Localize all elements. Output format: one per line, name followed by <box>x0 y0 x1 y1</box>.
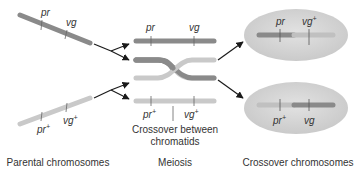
parental-chromosome-bottom: pr+ vg+ <box>20 98 90 135</box>
arrow-bottom-to-chromatid4 <box>111 90 129 99</box>
gene-label-vg-plus: vg+ <box>184 108 199 120</box>
gene-label-vg: vg <box>304 115 315 126</box>
gene-label-vg: vg <box>66 17 77 28</box>
meiosis-chromatids: pr vg pr+ vg+ <box>136 22 214 121</box>
gene-label-vg: vg <box>189 22 200 33</box>
arrow-stem-top <box>94 44 111 51</box>
arrows-parental-to-meiosis <box>94 44 129 99</box>
crossover-cell-top: pr vg+ <box>244 9 348 61</box>
gene-label-pr: pr <box>40 7 51 18</box>
caption-meiosis: Meiosis <box>158 157 192 168</box>
caption-crossover: Crossover chromosomes <box>242 157 353 168</box>
arrow-bottom-to-chromatid3 <box>111 83 129 90</box>
crossover-label-line2: chromatids <box>151 136 200 147</box>
arrows-meiosis-to-crossover <box>218 42 243 98</box>
cell-ellipse <box>244 82 348 134</box>
gene-label-pr-plus: pr+ <box>36 123 50 135</box>
arrow-to-top-cell <box>218 42 243 60</box>
caption-parental: Parental chromosomes <box>7 157 110 168</box>
crossover-label-line1: Crossover between <box>132 124 218 135</box>
gene-label-pr-plus: pr+ <box>142 108 156 120</box>
gene-label-pr: pr <box>145 22 156 33</box>
arrow-to-bottom-cell <box>218 80 243 98</box>
gene-label-vg-plus: vg+ <box>63 114 78 126</box>
arrow-top-to-chromatid2 <box>111 51 129 60</box>
gene-tick-pr-plus <box>41 112 42 121</box>
gene-label-pr: pr <box>275 16 286 27</box>
parental-chromosome-top: pr vg <box>20 7 90 43</box>
crossover-diagram: pr vg pr+ vg+ pr vg <box>0 0 364 173</box>
crossover-cell-bottom: pr+ vg <box>244 82 348 134</box>
arrow-top-to-chromatid1 <box>111 44 129 51</box>
arrow-stem-bottom <box>94 90 111 98</box>
